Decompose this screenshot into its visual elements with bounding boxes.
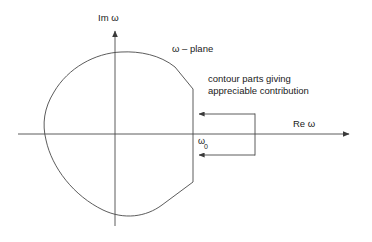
figure-canvas [0, 0, 372, 242]
omega-zero-label: ω0 [198, 136, 209, 150]
real-axis-label: Re ω [293, 118, 315, 130]
imaginary-axis-label: Im ω [98, 12, 119, 24]
omega-plane-figure: Im ω Re ω ω – plane contour parts giving… [0, 0, 372, 242]
omega-plane-label: ω – plane [172, 43, 213, 55]
contribution-annotation: contour parts giving appreciable contrib… [208, 73, 309, 97]
contribution-annotation-line2: appreciable contribution [208, 85, 309, 97]
contribution-annotation-line1: contour parts giving [208, 73, 309, 85]
omega-zero-subscript: 0 [204, 143, 208, 150]
